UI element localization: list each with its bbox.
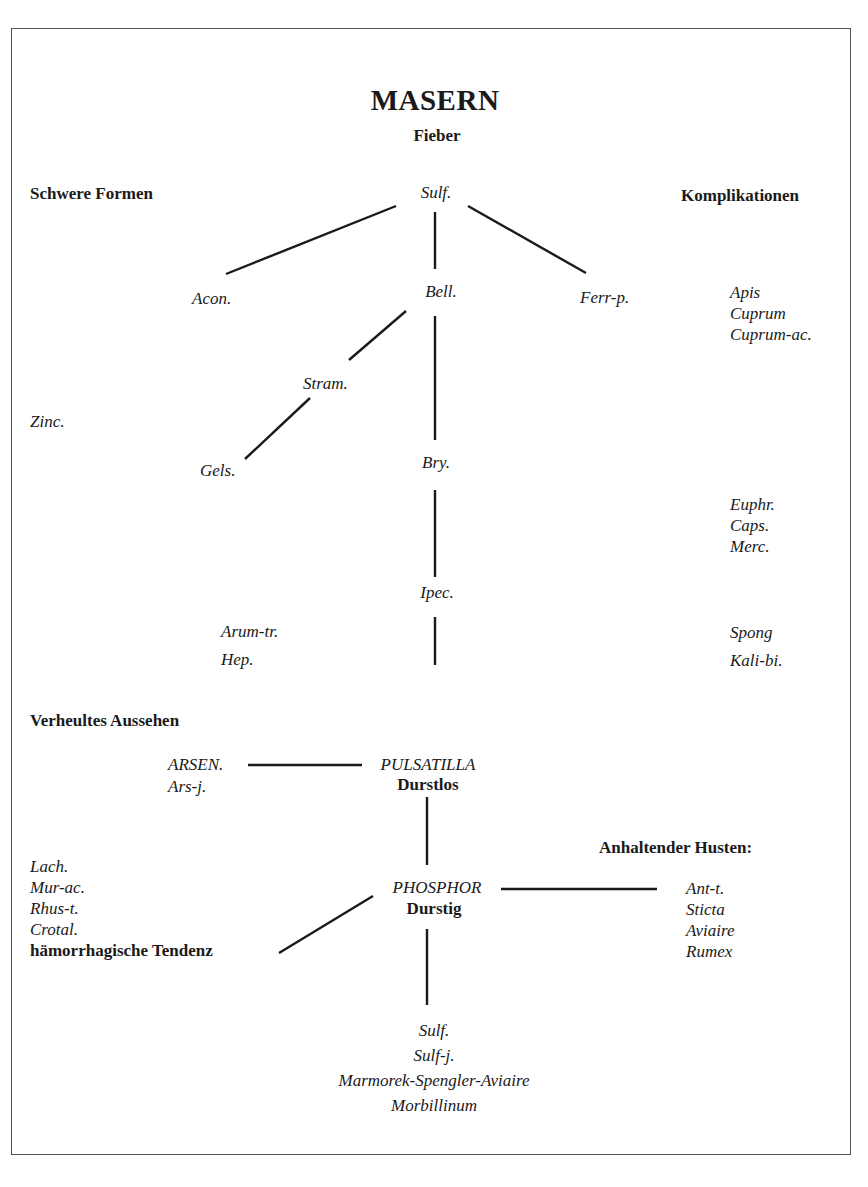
remedy-cuprum: Cuprum (730, 303, 812, 324)
remedy-ant-t: Ant-t. (686, 878, 734, 899)
page-title: MASERN (371, 86, 500, 115)
node-acon: Acon. (192, 290, 231, 307)
remedy-arum-tr: Arum-tr. (221, 621, 278, 643)
heading-anhaltender-husten: Anhaltender Husten: (599, 839, 752, 856)
group-arum: Arum-tr. Hep. (221, 621, 278, 671)
remedy-rhus-t: Rhus-t. (30, 898, 213, 919)
edge-sulf-acon (226, 206, 396, 274)
node-bell: Bell. (425, 283, 457, 300)
node-sulf-root: Sulf. (421, 184, 452, 201)
remedy-rumex: Rumex (686, 941, 734, 962)
node-ars-j: Ars-j. (168, 778, 206, 795)
node-ipec: Ipec. (420, 584, 454, 601)
group-cough: Ant-t. Sticta Aviaire Rumex (686, 878, 734, 962)
heading-verheultes-aussehen: Verheultes Aussehen (30, 712, 179, 729)
remedy-mur-ac: Mur-ac. (30, 877, 213, 898)
remedy-sulf-j: Sulf-j. (338, 1043, 529, 1068)
group-komplikationen-2: Euphr. Caps. Merc. (730, 494, 775, 557)
node-gels: Gels. (200, 462, 235, 479)
node-bry: Bry. (422, 454, 450, 471)
node-pulsatilla: PULSATILLA (381, 756, 476, 773)
label-durstig: Durstig (407, 900, 462, 917)
remedy-sticta: Sticta (686, 899, 734, 920)
group-komplikationen-3: Spong Kali-bi. (730, 622, 782, 672)
edge-stram-gels (245, 398, 310, 459)
heading-schwere-formen: Schwere Formen (30, 185, 153, 202)
remedy-hep: Hep. (221, 649, 278, 671)
remedy-marmorek-spengler-aviaire: Marmorek-Spengler-Aviaire (338, 1068, 529, 1093)
label-durstlos: Durstlos (397, 776, 458, 793)
node-arsen: ARSEN. (168, 756, 223, 773)
remedy-lach: Lach. (30, 856, 213, 877)
remedy-sulf: Sulf. (338, 1018, 529, 1043)
edge-bell-stram (349, 311, 406, 360)
node-zinc: Zinc. (30, 413, 64, 430)
remedy-aviaire: Aviaire (686, 920, 734, 941)
node-ferr-p: Ferr-p. (580, 289, 629, 306)
remedy-euphr: Euphr. (730, 494, 775, 515)
remedy-cuprum-ac: Cuprum-ac. (730, 324, 812, 345)
node-stram: Stram. (303, 375, 348, 392)
group-haemorrhagic: Lach. Mur-ac. Rhus-t. Crotal. hämorrhagi… (30, 856, 213, 961)
remedy-crotal: Crotal. (30, 919, 213, 940)
edge-phosphor-tendenz (279, 896, 373, 953)
heading-fieber: Fieber (413, 127, 460, 144)
group-komplikationen-1: Apis Cuprum Cuprum-ac. (730, 282, 812, 345)
remedy-caps: Caps. (730, 515, 775, 536)
heading-komplikationen: Komplikationen (681, 187, 799, 204)
group-bottom: Sulf. Sulf-j. Marmorek-Spengler-Aviaire … (338, 1018, 529, 1118)
remedy-apis: Apis (730, 282, 812, 303)
remedy-morbillinum: Morbillinum (338, 1093, 529, 1118)
remedy-spong: Spong (730, 622, 782, 644)
node-phosphor: PHOSPHOR (393, 879, 482, 896)
edge-sulf-ferr-p (468, 206, 586, 273)
remedy-merc: Merc. (730, 536, 775, 557)
label-haemorrhagische-tendenz: hämorrhagische Tendenz (30, 940, 213, 961)
remedy-kali-bi: Kali-bi. (730, 650, 782, 672)
